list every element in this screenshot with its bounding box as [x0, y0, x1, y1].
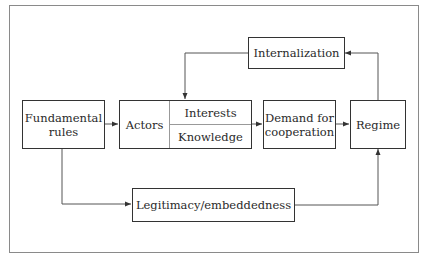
actors-label: Actors	[120, 101, 170, 148]
arrow-internalization-to-actors	[185, 53, 248, 99]
node-legitimacy-embeddedness: Legitimacy/embeddedness	[132, 188, 295, 222]
node-regime: Regime	[350, 100, 406, 149]
node-label: Fundamental	[25, 111, 102, 125]
arrow-rules-to-legitimacy	[62, 148, 131, 204]
node-label: Internalization	[253, 46, 339, 60]
node-label: Regime	[356, 118, 400, 132]
actors-knowledge: Knowledge	[170, 125, 251, 148]
actors-attributes: Interests Knowledge	[170, 101, 251, 148]
arrow-regime-to-internalization	[345, 53, 378, 100]
actors-interests: Interests	[170, 101, 251, 125]
node-demand-for-cooperation: Demand for cooperation	[263, 100, 336, 149]
node-label: Demand for	[265, 111, 334, 125]
node-fundamental-rules: Fundamental rules	[22, 100, 105, 149]
node-label: Legitimacy/embeddedness	[136, 198, 291, 212]
node-label: rules	[49, 125, 78, 139]
node-actors: Actors Interests Knowledge	[119, 100, 252, 149]
node-label: cooperation	[265, 125, 334, 139]
arrow-legitimacy-to-regime	[294, 149, 378, 205]
node-internalization: Internalization	[248, 37, 345, 69]
